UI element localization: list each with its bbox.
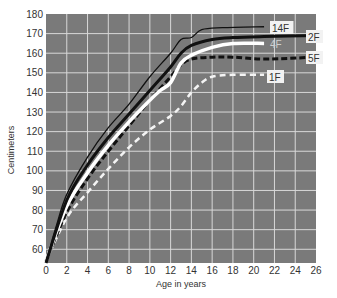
- y-tick-label: 180: [26, 9, 43, 20]
- x-axis-ticks: 02468101214161820222426: [43, 265, 322, 276]
- y-tick-label: 170: [26, 28, 43, 39]
- y-tick-label: 140: [26, 87, 43, 98]
- x-tick-label: 12: [165, 265, 177, 276]
- x-tick-label: 26: [310, 265, 322, 276]
- x-tick-label: 22: [269, 265, 281, 276]
- series-label-5f: 5F: [308, 53, 320, 64]
- series-label-1f: 1F: [269, 72, 281, 83]
- x-tick-label: 14: [186, 265, 198, 276]
- y-tick-label: 120: [26, 126, 43, 137]
- y-tick-label: 130: [26, 107, 43, 118]
- x-tick-label: 2: [64, 265, 70, 276]
- y-tick-label: 70: [32, 224, 44, 235]
- x-tick-label: 4: [85, 265, 91, 276]
- y-tick-label: 80: [32, 205, 44, 216]
- series-label-2f: 2F: [308, 32, 320, 43]
- x-tick-label: 8: [126, 265, 132, 276]
- y-tick-label: 150: [26, 67, 43, 78]
- y-tick-label: 110: [27, 146, 43, 157]
- x-tick-label: 10: [144, 265, 156, 276]
- x-tick-label: 16: [207, 265, 219, 276]
- x-tick-label: 0: [43, 265, 49, 276]
- y-axis-ticks: 60708090100110120130140150160170180: [26, 9, 43, 255]
- x-tick-label: 18: [227, 265, 239, 276]
- y-tick-label: 160: [26, 48, 43, 59]
- y-axis-label: Centimeters: [6, 125, 16, 174]
- x-tick-label: 20: [248, 265, 260, 276]
- series-label-14f: 14F: [272, 23, 289, 34]
- x-tick-label: 6: [106, 265, 112, 276]
- x-axis-label: Age in years: [156, 279, 207, 289]
- growth-chart: 14F2F4F5F1F 02468101214161820222426 6070…: [0, 0, 337, 298]
- series-label-4f: 4F: [270, 39, 282, 50]
- y-tick-label: 100: [26, 165, 43, 176]
- y-tick-label: 60: [32, 244, 44, 255]
- y-tick-label: 90: [32, 185, 44, 196]
- x-tick-label: 24: [290, 265, 302, 276]
